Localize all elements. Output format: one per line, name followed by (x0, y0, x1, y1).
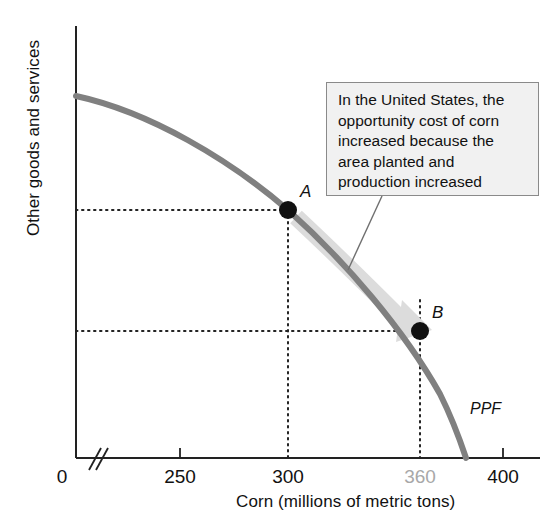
annotation-line: increased because the (338, 131, 529, 152)
annotation-text: In the United States, the opportunity co… (338, 90, 529, 193)
x-tick-label-400: 400 (473, 466, 533, 488)
dropline-a (76, 210, 288, 458)
x-axis-title: Corn (millions of metric tons) (236, 492, 455, 512)
annotation-line: In the United States, the (338, 90, 529, 111)
x-tick-label-360: 360 (390, 466, 450, 488)
data-point-label-b: B (432, 303, 443, 323)
x-tick-label-300: 300 (258, 466, 318, 488)
ppf-figure: Other goods and services Corn (millions … (0, 0, 560, 526)
y-axis-title: Other goods and services (24, 28, 44, 248)
data-point-b[interactable] (411, 322, 429, 340)
x-axis-ticks (180, 448, 503, 458)
annotation-line: production increased (338, 172, 529, 193)
annotation-line: opportunity cost of corn (338, 111, 529, 132)
data-point-a[interactable] (279, 201, 297, 219)
annotation-callout: In the United States, the opportunity co… (326, 82, 539, 196)
annotation-line: area planted and (338, 152, 529, 173)
chart-canvas (0, 0, 560, 526)
data-point-label-a: A (300, 182, 311, 202)
x-tick-label-250: 250 (150, 466, 210, 488)
x-tick-label-origin: 0 (48, 466, 76, 488)
ppf-curve-label: PPF (470, 400, 501, 418)
annotation-leader-line (348, 196, 382, 270)
dropline-b (76, 300, 420, 458)
